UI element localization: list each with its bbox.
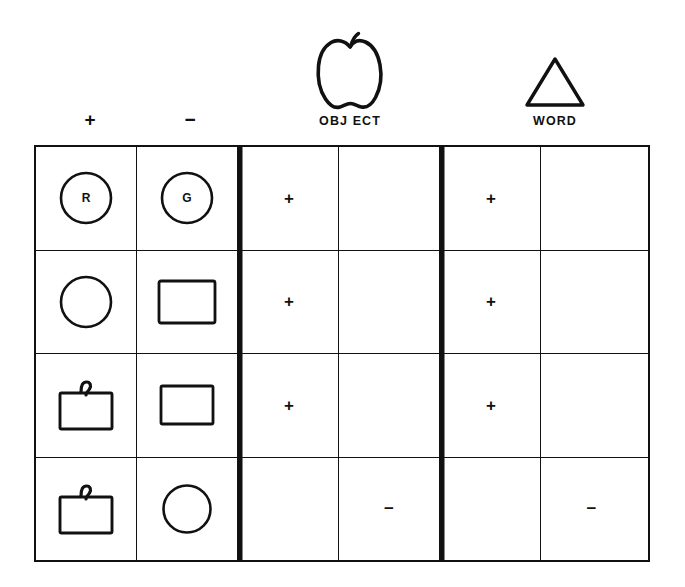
cell-pos-stimulus — [36, 354, 137, 457]
rectangle-plain-icon — [156, 278, 218, 326]
response-mark: + — [486, 293, 496, 310]
cell-neg-stimulus — [137, 458, 238, 561]
cell-word-negative — [541, 251, 642, 354]
table-row: + + — [36, 354, 648, 458]
cell-object-negative — [339, 354, 440, 457]
figure-canvas: + − OBJ ECT WORD — [0, 0, 685, 587]
cell-word-positive — [440, 458, 541, 561]
object-group-header: OBJ ECT — [280, 22, 420, 128]
cell-object-positive: + — [238, 147, 339, 250]
cell-word-positive: + — [440, 354, 541, 457]
cell-object-negative — [339, 251, 440, 354]
response-mark: − — [587, 500, 597, 517]
cell-object-negative: − — [339, 458, 440, 561]
stimulus-response-matrix: R G + + — [34, 145, 650, 562]
response-mark: + — [486, 397, 496, 414]
circle-plain-icon — [57, 273, 115, 331]
cell-object-negative — [339, 147, 440, 250]
apple-outline-icon — [280, 22, 420, 112]
object-group-label: OBJ ECT — [280, 114, 420, 128]
rectangle-with-hook-icon — [53, 478, 119, 540]
rectangle-plain-icon — [158, 383, 216, 427]
table-row: + + — [36, 251, 648, 355]
rectangle-with-hook-icon — [53, 374, 119, 436]
cell-neg-stimulus — [137, 354, 238, 457]
word-group-header: WORD — [485, 22, 625, 128]
cell-word-positive: + — [440, 147, 541, 250]
response-mark: + — [284, 190, 294, 207]
positive-stimulus-header: + — [70, 110, 110, 129]
cell-object-positive — [238, 458, 339, 561]
cell-word-negative — [541, 354, 642, 457]
cell-pos-stimulus — [36, 458, 137, 561]
cell-object-positive: + — [238, 251, 339, 354]
cell-word-negative — [541, 147, 642, 250]
table-row: − − — [36, 458, 648, 561]
circle-with-letter-icon: R — [57, 169, 115, 227]
cell-pos-stimulus — [36, 251, 137, 354]
response-mark: − — [384, 500, 394, 517]
legend-header: + − OBJ ECT WORD — [0, 0, 685, 145]
cell-neg-stimulus — [137, 251, 238, 354]
response-mark: + — [284, 293, 294, 310]
response-mark: + — [284, 397, 294, 414]
negative-stimulus-header: − — [170, 110, 210, 129]
cell-pos-stimulus: R — [36, 147, 137, 250]
cell-object-positive: + — [238, 354, 339, 457]
triangle-outline-icon — [485, 22, 625, 112]
response-mark: + — [486, 190, 496, 207]
word-group-label: WORD — [485, 114, 625, 128]
circle-plain-icon — [160, 482, 214, 536]
cell-word-negative: − — [541, 458, 642, 561]
cell-neg-stimulus: G — [137, 147, 238, 250]
circle-with-letter-icon: G — [158, 169, 216, 227]
cell-word-positive: + — [440, 251, 541, 354]
table-row: R G + + — [36, 147, 648, 251]
